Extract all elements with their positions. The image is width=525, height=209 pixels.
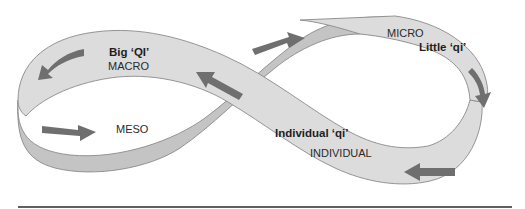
meso-arrow-icon xyxy=(42,125,96,141)
label-little-qi: Little ‘qi’ xyxy=(419,41,466,53)
label-big-qi: Big ‘QI’ xyxy=(109,46,149,58)
label-individual-qi: Individual ‘qi’ xyxy=(275,127,348,139)
label-meso: MESO xyxy=(116,123,149,135)
label-micro: MICRO xyxy=(387,27,424,39)
mobius-diagram: Big ‘QI’ MACRO MICRO Little ‘qi’ MESO In… xyxy=(0,0,525,209)
label-macro: MACRO xyxy=(108,60,149,72)
label-individual: INDIVIDUAL xyxy=(310,147,372,159)
